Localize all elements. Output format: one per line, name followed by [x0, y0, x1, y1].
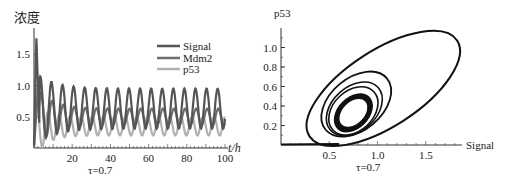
- left-x-tick-label: 20: [67, 152, 79, 164]
- left-y-tick-label: 1.5: [16, 48, 30, 60]
- right-x-tick-label: 1.5: [419, 149, 433, 161]
- left-x-tick-label: 40: [105, 152, 117, 164]
- right-y-tick-label: 1.0: [263, 42, 277, 54]
- right-y-axis-label: p53: [274, 7, 291, 19]
- charts-canvas: 浓度 0.51.01.520406080100 t/h Signal Mdm2 …: [0, 0, 510, 185]
- left-y-tick-label: 0.5: [16, 111, 30, 123]
- figure: 浓度 0.51.01.520406080100 t/h Signal Mdm2 …: [0, 0, 510, 185]
- left-panel: 浓度 0.51.01.520406080100 t/h Signal Mdm2 …: [14, 10, 241, 176]
- left-y-tick-label: 1.0: [16, 80, 30, 92]
- left-x-axis-label: t/h: [228, 141, 241, 155]
- right-y-tick-label: 0.4: [263, 100, 277, 112]
- right-y-tick-label: 0.6: [263, 81, 277, 93]
- right-y-tick-label: 0.2: [263, 120, 277, 132]
- right-x-axis-label: Signal: [466, 139, 494, 151]
- right-y-tick-label: 0.8: [263, 61, 277, 73]
- left-y-axis-label: 浓度: [14, 10, 40, 25]
- right-caption: τ=0.7: [356, 161, 381, 173]
- right-phase-trajectory: [281, 9, 478, 169]
- legend-signal: Signal: [183, 40, 211, 52]
- legend-p53: p53: [183, 63, 200, 75]
- left-x-tick-label: 60: [143, 152, 155, 164]
- right-x-tick-label: 0.5: [322, 149, 336, 161]
- right-panel: p53 0.20.40.60.81.00.51.01.5 Signal τ=0.…: [263, 7, 494, 173]
- right-x-tick-label: 1.0: [371, 149, 385, 161]
- left-caption: τ=0.7: [88, 164, 113, 176]
- legend: Signal Mdm2 p53: [157, 40, 212, 75]
- left-x-tick-label: 80: [181, 152, 193, 164]
